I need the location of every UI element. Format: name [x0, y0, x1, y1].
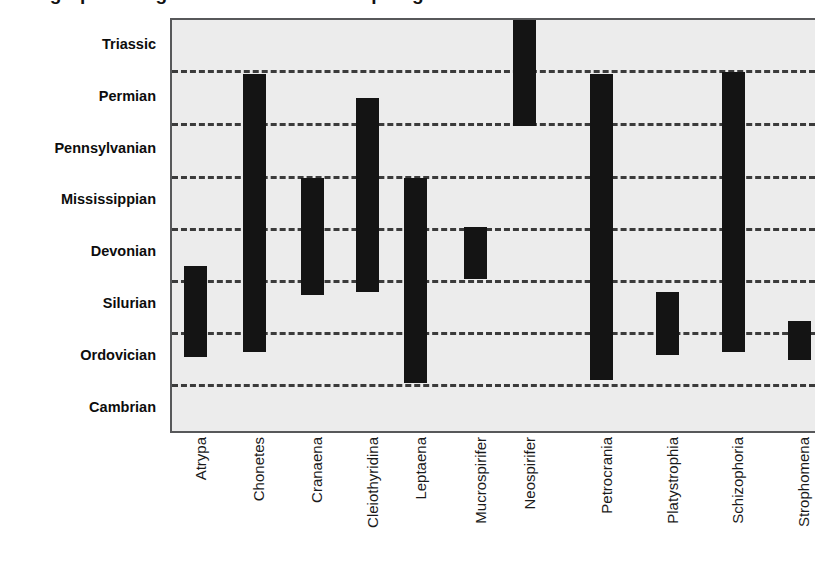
gridline-2 [172, 176, 815, 179]
x-axis-label-leptaena: Leptaena [407, 437, 422, 500]
x-axis-label-text: Atrypa [193, 437, 208, 480]
range-bar-platystrophia [656, 292, 679, 354]
x-axis-label-text: Cranaena [309, 437, 324, 503]
gridline-1 [172, 123, 815, 126]
x-axis-label-mucrospirifer: Mucrospirifer [467, 437, 482, 524]
plot-inner [172, 20, 815, 431]
gridline-4 [172, 280, 815, 283]
x-axis-label-strophomena: Strophomena [790, 437, 805, 527]
range-bar-chonetes [243, 74, 266, 352]
x-axis-label-schizophoria: Schizophoria [724, 437, 739, 524]
gridline-6 [172, 384, 815, 387]
range-bar-atrypa [184, 266, 207, 357]
gridline-3 [172, 228, 815, 231]
y-axis-label-devonian: Devonian [0, 244, 156, 259]
range-bar-strophomena [788, 321, 811, 360]
y-axis-label-cambrian: Cambrian [0, 400, 156, 415]
y-axis-period-labels: TriassicPermianPennsylvanianMississippia… [0, 18, 164, 433]
x-axis-label-text: Leptaena [413, 437, 428, 500]
x-axis-label-text: Petrocrania [599, 437, 614, 514]
x-axis-label-platystrophia: Platystrophia [659, 437, 674, 524]
y-axis-label-mississippian: Mississippian [0, 192, 156, 207]
x-axis-label-text: Platystrophia [665, 437, 680, 524]
x-axis-label-text: Chonetes [251, 437, 266, 501]
x-axis-label-text: Strophomena [796, 437, 811, 527]
range-bar-neospirifer [513, 20, 536, 126]
x-axis-label-petrocrania: Petrocrania [593, 437, 608, 514]
range-bar-schizophoria [722, 72, 745, 352]
y-axis-label-silurian: Silurian [0, 296, 156, 311]
gridline-0 [172, 70, 815, 73]
range-bar-mucrospirifer [464, 227, 487, 279]
y-axis-label-triassic: Triassic [0, 37, 156, 52]
range-bar-leptaena [404, 178, 427, 383]
x-axis-label-text: Cleiothyridina [365, 437, 380, 528]
y-axis-label-pennsylvanian: Pennsylvanian [0, 141, 156, 156]
x-axis-label-chonetes: Chonetes [245, 437, 260, 501]
x-axis-label-cleiothyridina: Cleiothyridina [359, 437, 374, 528]
range-bar-cleiothyridina [356, 98, 379, 293]
clipped-chart-title: Stratigraphic ranges of selected brachio… [0, 0, 520, 9]
y-axis-label-permian: Permian [0, 89, 156, 104]
x-axis-label-text: Mucrospirifer [473, 437, 488, 524]
range-bar-petrocrania [590, 74, 613, 380]
x-axis-label-text: Schizophoria [730, 437, 745, 524]
gridline-5 [172, 332, 815, 335]
y-axis-label-ordovician: Ordovician [0, 348, 156, 363]
plot-area [170, 18, 815, 433]
x-axis-label-text: Neospirifer [522, 437, 537, 510]
x-axis-label-atrypa: Atrypa [187, 437, 202, 480]
range-bar-cranaena [301, 178, 324, 295]
x-axis-label-neospirifer: Neospirifer [516, 437, 531, 510]
x-axis-label-cranaena: Cranaena [303, 437, 318, 503]
x-axis-genus-labels: AtrypaChonetesCranaenaCleiothyridinaLept… [170, 437, 809, 573]
